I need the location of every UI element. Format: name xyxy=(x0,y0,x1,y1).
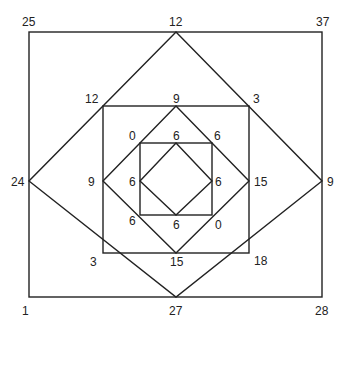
inner-diamond xyxy=(140,143,212,215)
label-inner-bottom-left: 6 xyxy=(129,214,136,228)
label-inner-top-right: 6 xyxy=(214,129,221,143)
label-outer-bottom-left: 1 xyxy=(22,304,29,318)
label-outer-top-left: 25 xyxy=(22,15,36,29)
label-outer-diamond-bottom: 27 xyxy=(169,304,183,318)
label-middle-diamond-right: 15 xyxy=(254,175,268,189)
label-inner-diamond-top: 6 xyxy=(173,129,180,143)
label-middle-diamond-bottom: 15 xyxy=(170,255,184,269)
label-outer-bottom-right: 28 xyxy=(315,304,329,318)
label-middle-diamond-left: 9 xyxy=(88,175,95,189)
label-middle-top-right: 3 xyxy=(253,92,260,106)
label-middle-bottom-left: 3 xyxy=(90,255,97,269)
label-inner-diamond-right: 6 xyxy=(215,175,222,189)
label-middle-diamond-top: 9 xyxy=(173,92,180,106)
label-outer-diamond-left: 24 xyxy=(11,175,25,189)
label-outer-diamond-right: 9 xyxy=(327,175,334,189)
label-outer-top-right: 37 xyxy=(316,15,330,29)
label-outer-diamond-top: 12 xyxy=(169,15,183,29)
inner-square xyxy=(140,143,212,215)
nested-squares-diagram: 25 37 1 28 12 24 9 27 12 3 3 18 9 9 15 1… xyxy=(0,0,350,365)
label-inner-diamond-left: 6 xyxy=(129,175,136,189)
label-inner-diamond-bottom: 6 xyxy=(173,218,180,232)
label-middle-bottom-right: 18 xyxy=(254,254,268,268)
label-inner-top-left: 0 xyxy=(129,129,136,143)
label-middle-top-left: 12 xyxy=(85,92,99,106)
label-inner-bottom-right: 0 xyxy=(215,218,222,232)
